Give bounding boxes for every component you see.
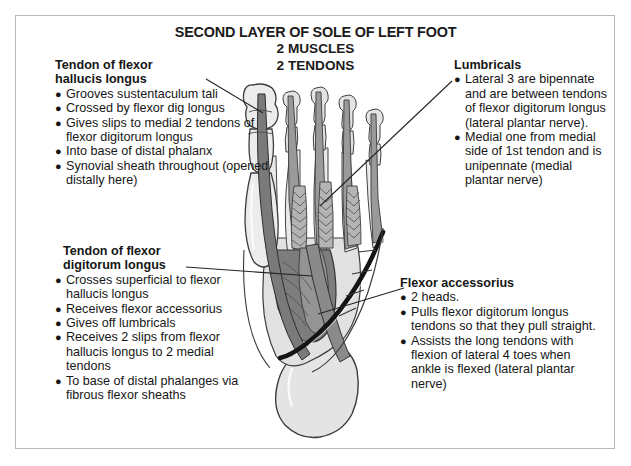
list-item: ●Grooves sustentaculum tali xyxy=(55,87,270,101)
bullet-icon: ● xyxy=(55,116,62,130)
note-heading-lumbricals: Lumbricals xyxy=(454,58,614,72)
list-item-text: Medial one from medial side of 1st tendo… xyxy=(465,130,602,187)
note-list-flexor-digitorum-longus: ●Crosses superficial to flexor hallucis … xyxy=(55,273,260,403)
note-list-flexor-accessorius: ●2 heads. ●Pulls flexor digitorum longus… xyxy=(400,290,600,391)
bullet-icon: ● xyxy=(55,159,62,173)
list-item-text: Crossed by flexor dig longus xyxy=(66,101,225,115)
note-heading-flexor-accessorius: Flexor accessorius xyxy=(400,276,600,290)
note-heading-flexor-digitorum-longus: Tendon of flexor digitorum longus xyxy=(63,244,260,273)
bullet-icon: ● xyxy=(400,290,407,304)
list-item: ●Medial one from medial side of 1st tend… xyxy=(454,130,614,188)
list-item-text: Receives flexor accessorius xyxy=(66,302,222,316)
note-flexor-accessorius: Flexor accessorius ●2 heads. ●Pulls flex… xyxy=(400,276,600,391)
list-item: ●Pulls flexor digitorum longus tendons s… xyxy=(400,305,600,334)
bullet-icon: ● xyxy=(454,72,461,86)
bullet-icon: ● xyxy=(55,302,62,316)
bullet-icon: ● xyxy=(55,101,62,115)
note-heading-flexor-hallucis-longus: Tendon of flexor hallucis longus xyxy=(55,58,270,87)
note-list-flexor-hallucis-longus: ●Grooves sustentaculum tali ●Crossed by … xyxy=(55,87,270,188)
bullet-icon: ● xyxy=(55,273,62,287)
list-item-text: Grooves sustentaculum tali xyxy=(66,87,218,101)
list-item: ●Receives 2 slips from flexor hallucis l… xyxy=(55,330,260,373)
list-item: ●2 heads. xyxy=(400,290,600,304)
anatomy-figure-panel: SECOND LAYER OF SOLE OF LEFT FOOT 2 MUSC… xyxy=(0,0,631,466)
list-item: ●Gives slips to medial 2 tendons of flex… xyxy=(55,116,270,145)
list-item-text: Into base of distal phalanx xyxy=(66,144,212,158)
heading-line-2: digitorum longus xyxy=(63,258,166,272)
bullet-icon: ● xyxy=(55,87,62,101)
bullet-icon: ● xyxy=(400,305,407,319)
list-item-text: 2 heads. xyxy=(411,290,459,304)
heading-line-1: Tendon of flexor xyxy=(63,244,161,258)
list-item: ●Crosses superficial to flexor hallucis … xyxy=(55,273,260,302)
list-item-text: Pulls flexor digitorum longus tendons so… xyxy=(411,305,596,333)
list-item-text: Lateral 3 are bipennate and are between … xyxy=(465,72,607,129)
bullet-icon: ● xyxy=(55,374,62,388)
heading-line-1: Tendon of flexor xyxy=(55,58,153,72)
list-item: ●Crossed by flexor dig longus xyxy=(55,101,270,115)
list-item: ●To base of distal phalanges via fibrous… xyxy=(55,374,260,403)
note-lumbricals: Lumbricals ●Lateral 3 are bipennate and … xyxy=(454,58,614,188)
bullet-icon: ● xyxy=(400,334,407,348)
list-item-text: To base of distal phalanges via fibrous … xyxy=(66,374,238,402)
bullet-icon: ● xyxy=(55,330,62,344)
list-item: ●Lateral 3 are bipennate and are between… xyxy=(454,72,614,130)
list-item-text: Gives slips to medial 2 tendons of flexo… xyxy=(66,116,254,144)
bullet-icon: ● xyxy=(454,130,461,144)
note-flexor-digitorum-longus: Tendon of flexor digitorum longus ●Cross… xyxy=(55,244,260,402)
list-item-text: Receives 2 slips from flexor hallucis lo… xyxy=(66,330,220,373)
heading-line-2: hallucis longus xyxy=(55,72,147,86)
list-item-text: Gives off lumbricals xyxy=(66,316,176,330)
bullet-icon: ● xyxy=(55,144,62,158)
list-item: ●Assists the long tendons with flexion o… xyxy=(400,334,600,392)
note-list-lumbricals: ●Lateral 3 are bipennate and are between… xyxy=(454,72,614,187)
bullet-icon: ● xyxy=(55,316,62,330)
list-item-text: Synovial sheath throughout (opened dista… xyxy=(66,159,268,187)
list-item: ●Synovial sheath throughout (opened dist… xyxy=(55,159,270,188)
list-item: ●Into base of distal phalanx xyxy=(55,144,270,158)
list-item: ●Gives off lumbricals xyxy=(55,316,260,330)
list-item: ●Receives flexor accessorius xyxy=(55,302,260,316)
list-item-text: Crosses superficial to flexor hallucis l… xyxy=(66,273,221,301)
note-flexor-hallucis-longus: Tendon of flexor hallucis longus ●Groove… xyxy=(55,58,270,188)
list-item-text: Assists the long tendons with flexion of… xyxy=(411,334,575,391)
